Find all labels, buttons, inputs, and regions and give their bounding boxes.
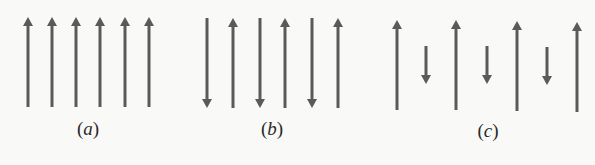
panel-a	[23, 17, 154, 107]
arrow-down-icon	[542, 47, 552, 85]
arrow-up-icon	[71, 17, 81, 107]
arrow-diagram	[0, 0, 595, 165]
arrow-up-icon	[451, 20, 461, 110]
arrow-down-icon	[421, 46, 431, 84]
arrow-up-icon	[47, 17, 57, 107]
arrow-up-icon	[95, 17, 105, 107]
panel-label-b: (b)	[261, 118, 283, 140]
arrow-up-icon	[280, 18, 290, 108]
panel-c	[392, 20, 582, 112]
panel-b	[202, 18, 343, 108]
panel-label-c: (c)	[477, 120, 498, 142]
arrow-down-icon	[202, 18, 212, 108]
arrow-down-icon	[255, 18, 265, 108]
arrow-down-icon	[307, 18, 317, 108]
arrow-down-icon	[482, 46, 492, 84]
spin-alignment-figure: (a) (b) (c)	[0, 0, 595, 165]
arrow-up-icon	[333, 18, 343, 108]
arrow-up-icon	[23, 17, 33, 107]
panel-label-a: (a)	[77, 118, 99, 140]
arrow-up-icon	[120, 17, 130, 107]
arrow-up-icon	[228, 18, 238, 108]
arrow-up-icon	[512, 21, 522, 111]
arrow-up-icon	[144, 17, 154, 107]
arrow-up-icon	[572, 22, 582, 112]
arrow-up-icon	[392, 20, 402, 110]
